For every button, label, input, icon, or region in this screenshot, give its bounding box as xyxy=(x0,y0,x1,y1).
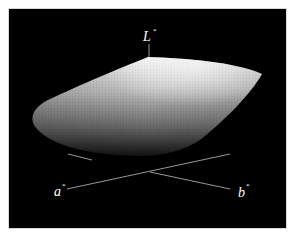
b-axis-sup: * xyxy=(246,182,250,190)
a-axis-label: a xyxy=(54,184,61,199)
gamut-surface xyxy=(33,57,262,156)
gamut-surface-plot: L * a * b * xyxy=(0,0,294,236)
a-axis-back xyxy=(68,154,92,160)
b-axis xyxy=(150,172,230,189)
a-axis-sup: * xyxy=(62,182,66,190)
b-axis-label: b xyxy=(238,185,245,200)
l-axis-label: L xyxy=(142,29,151,44)
l-axis-sup: * xyxy=(153,27,157,35)
